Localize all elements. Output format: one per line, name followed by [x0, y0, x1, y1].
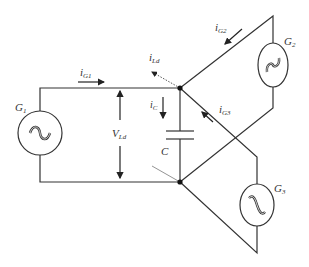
iC-label: iC: [150, 100, 157, 112]
g1-label: G1: [15, 102, 26, 115]
wire-top: [40, 88, 180, 111]
iLd-arrow: [152, 72, 180, 88]
g3-label: G3: [274, 183, 285, 196]
circuit-wires: [0, 0, 309, 267]
iG2-label: iG2: [215, 22, 227, 35]
iG3-arrow: [202, 112, 213, 122]
iG1-label: iG1: [80, 67, 92, 80]
circuit-diagram: G1 G2 G3 iG1 iG2 iG3 iLd iC VLd C: [0, 0, 309, 267]
vLd-label: VLd: [112, 128, 126, 141]
load-line-bottom: [152, 166, 180, 182]
wire-g3-bottom: [180, 182, 257, 253]
capacitor-label: C: [161, 146, 168, 157]
node-top: [177, 85, 182, 90]
iLd-label: iLd: [149, 52, 159, 65]
g2-label: G2: [284, 36, 295, 49]
node-bottom: [177, 179, 182, 184]
iG3-label: iG3: [219, 104, 231, 117]
wire-bottom: [40, 155, 180, 182]
